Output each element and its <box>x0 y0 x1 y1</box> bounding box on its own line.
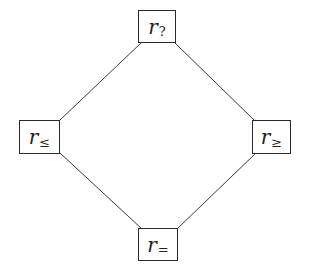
node-r-unknown: r? <box>138 10 176 43</box>
edge-right-bottom <box>177 153 256 229</box>
node-subscript: ≤ <box>39 136 50 149</box>
node-r-leq: r≤ <box>19 120 60 154</box>
node-variable: r <box>29 127 39 147</box>
node-variable: r <box>148 17 158 37</box>
node-r-geq: r≥ <box>252 120 291 154</box>
edge-top-left <box>60 43 141 120</box>
node-subscript: = <box>158 243 169 256</box>
node-variable: r <box>261 127 271 147</box>
node-subscript: ? <box>159 25 166 38</box>
node-subscript: ≥ <box>271 136 282 149</box>
node-r-eq: r= <box>138 228 178 261</box>
edge-left-bottom <box>60 153 142 229</box>
edge-top-right <box>175 43 254 120</box>
lattice-diagram: r? r≤ r≥ r= <box>0 0 316 277</box>
node-variable: r <box>147 235 157 255</box>
